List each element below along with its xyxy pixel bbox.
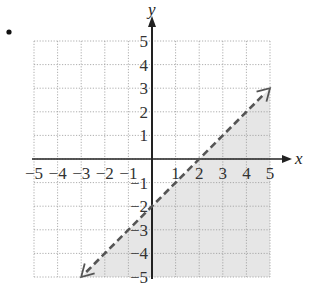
x-tick-label: 1 — [171, 164, 180, 183]
y-tick-label: 2 — [140, 103, 149, 122]
inequality-graph: xy−5−4−3−2−11234554321−1−2−3−4−5 — [0, 0, 310, 298]
y-tick-label: 3 — [140, 79, 149, 98]
y-tick-label: −3 — [130, 221, 148, 240]
y-tick-label: 4 — [140, 56, 149, 75]
bullet-dot — [6, 29, 11, 34]
x-tick-label: −5 — [25, 164, 43, 183]
x-axis-label: x — [294, 149, 303, 168]
y-tick-label: −4 — [130, 244, 149, 263]
y-tick-label: −1 — [130, 174, 148, 193]
y-tick-label: 1 — [140, 126, 149, 145]
x-tick-label: −2 — [96, 164, 114, 183]
x-tick-label: −3 — [72, 164, 90, 183]
x-axis-arrow-icon — [282, 155, 292, 163]
x-tick-label: 5 — [266, 164, 275, 183]
y-tick-label: −5 — [130, 268, 148, 287]
x-tick-label: 3 — [219, 164, 228, 183]
y-tick-label: 5 — [140, 32, 149, 51]
x-tick-label: 4 — [242, 164, 251, 183]
x-tick-label: 2 — [195, 164, 204, 183]
x-tick-label: −4 — [49, 164, 68, 183]
y-axis-label: y — [146, 0, 156, 19]
